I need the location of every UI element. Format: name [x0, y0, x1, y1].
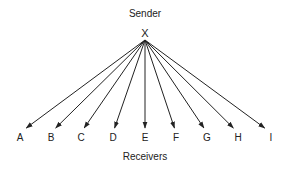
arrow-to-i	[145, 40, 265, 128]
receiver-i: I	[270, 132, 273, 143]
broadcast-arrows	[0, 0, 286, 171]
receiver-c: C	[77, 132, 84, 143]
arrow-to-a	[26, 40, 145, 128]
arrow-to-g	[145, 40, 204, 128]
receiver-a: A	[17, 132, 24, 143]
sender-node-x: X	[141, 27, 148, 39]
receiver-g: G	[203, 132, 211, 143]
arrow-to-c	[84, 40, 145, 128]
receivers-title: Receivers	[123, 151, 167, 162]
arrow-to-b	[56, 40, 145, 128]
receiver-d: D	[109, 132, 116, 143]
arrow-to-h	[145, 40, 233, 128]
sender-title: Sender	[129, 8, 161, 19]
receiver-e: E	[142, 132, 149, 143]
receiver-b: B	[48, 132, 55, 143]
receiver-h: H	[234, 132, 241, 143]
receiver-f: F	[173, 132, 179, 143]
arrow-to-d	[115, 40, 145, 128]
arrow-to-f	[145, 40, 174, 128]
